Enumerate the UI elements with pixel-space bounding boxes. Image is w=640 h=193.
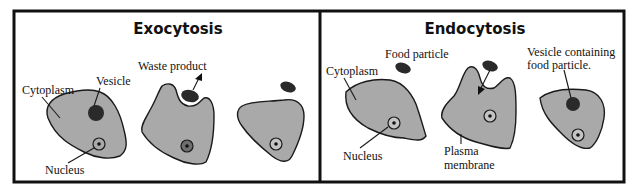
- endo-vesicle-label-1: Vesicle containing: [527, 45, 615, 59]
- exocytosis-title: Exocytosis: [133, 20, 222, 38]
- food-vesicle-icon: [566, 97, 580, 111]
- exo-nucleus-label: Nucleus: [45, 163, 85, 177]
- endo-nucleus-label: Nucleus: [343, 149, 383, 163]
- endo-cytoplasm-label: Cytoplasm: [326, 64, 379, 78]
- endo-food-label: Food particle: [385, 47, 449, 61]
- endocytosis-title: Endocytosis: [424, 20, 525, 38]
- vesicle-icon: [88, 105, 104, 121]
- endo-plasma-label-1: Plasma: [444, 144, 479, 158]
- endo-plasma-label-2: membrane: [444, 158, 495, 172]
- exo-vesicle-label: Vesicle: [96, 74, 131, 88]
- cytosis-diagram: Exocytosis Cytoplasm Vesicle Nucleus Was…: [0, 0, 640, 193]
- endo-vesicle-label-2: food particle.: [527, 58, 591, 72]
- exo-cytoplasm-label: Cytoplasm: [22, 83, 75, 97]
- exo-waste-label: Waste product: [138, 59, 207, 73]
